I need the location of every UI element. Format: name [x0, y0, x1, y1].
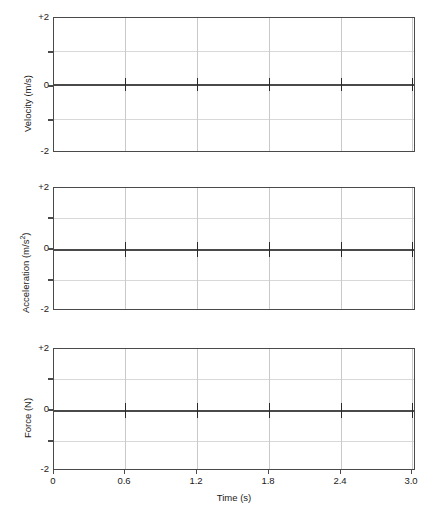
- zero-tick-force-x30: [412, 403, 413, 418]
- x-tick-label-12: 1.2: [181, 475, 211, 486]
- zero-tick-acceleration-x30: [412, 242, 413, 257]
- zero-tick-acceleration-x06: [125, 242, 126, 257]
- zero-tick-velocity-x12: [197, 78, 198, 91]
- zero-tick-acceleration-x24: [341, 242, 342, 257]
- y-tick-label-acceleration-top: +2: [29, 182, 49, 192]
- x-tick-stub-0: [53, 470, 54, 474]
- x-tick-label-06: 0.6: [109, 475, 139, 486]
- gridline-force-plus1: [54, 379, 414, 380]
- y-tick-label-force-mid: 0: [29, 404, 49, 414]
- zero-tick-force-x18: [269, 403, 270, 418]
- zero-tick-force-x06: [125, 403, 126, 418]
- x-tick-label-18: 1.8: [253, 475, 283, 486]
- x-tick-label-0: 0: [38, 475, 68, 486]
- zero-tick-velocity-x18: [269, 78, 270, 91]
- data-series-acceleration: [54, 249, 414, 251]
- zero-tick-force-x12: [197, 403, 198, 418]
- zero-tick-acceleration-x18: [269, 242, 270, 257]
- gridline-force-minus1: [54, 441, 414, 442]
- plot-area-velocity: [53, 17, 415, 152]
- data-series-velocity: [54, 84, 414, 86]
- y-tick-label-acceleration-bottom: -2: [29, 304, 49, 314]
- y-tick-label-force-bottom: -2: [29, 464, 49, 474]
- x-tick-stub-30: [411, 470, 412, 474]
- y-axis-title-acceleration-tail: ): [20, 233, 31, 236]
- zero-tick-velocity-x06: [125, 78, 126, 91]
- x-tick-label-24: 2.4: [325, 475, 355, 486]
- x-tick-stub-06: [124, 470, 125, 474]
- y-tick-label-force-top: +2: [29, 343, 49, 353]
- gridline-acceleration-plus1: [54, 218, 414, 219]
- data-series-force: [54, 410, 414, 412]
- x-axis-title: Time (s): [154, 492, 314, 503]
- x-tick-stub-12: [196, 470, 197, 474]
- gridline-velocity-plus1: [54, 51, 414, 52]
- gridline-velocity-minus1: [54, 119, 414, 120]
- y-axis-title-acceleration-exponent: 2: [19, 236, 26, 240]
- y-tick-label-velocity-bottom: -2: [29, 146, 49, 156]
- plot-area-acceleration: [53, 187, 415, 310]
- zero-tick-acceleration-x12: [197, 242, 198, 257]
- gridline-acceleration-minus1: [54, 280, 414, 281]
- zero-tick-velocity-x30: [412, 78, 413, 91]
- x-tick-stub-18: [268, 470, 269, 474]
- y-tick-label-velocity-mid: 0: [29, 80, 49, 90]
- y-tick-label-acceleration-mid: 0: [29, 243, 49, 253]
- y-tick-label-velocity-top: +2: [29, 12, 49, 22]
- zero-tick-force-x24: [341, 403, 342, 418]
- x-tick-stub-24: [340, 470, 341, 474]
- zero-tick-velocity-x24: [341, 78, 342, 91]
- x-tick-label-30: 3.0: [396, 475, 426, 486]
- three-panel-motion-graphs: Velocity (m/s) +2 0 -2 Acceleration (m/s…: [0, 0, 437, 523]
- plot-area-force: [53, 348, 415, 470]
